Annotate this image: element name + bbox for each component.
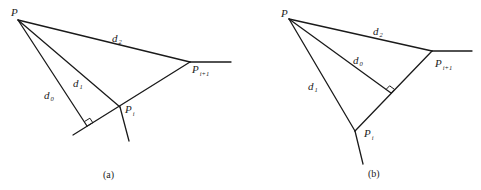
caption-b: (b) [368, 168, 380, 180]
segment-d2-a [18, 20, 190, 62]
segment-d1-b [289, 19, 355, 131]
label-Pi1-a: Pi+1 [191, 63, 209, 77]
edge-after-pi-b [355, 131, 363, 164]
panel-b: P d2 d0 d1 Pi Pi+1 (b) [280, 7, 472, 180]
label-d0-a: d0 [44, 89, 55, 102]
segment-d0-a [18, 20, 87, 126]
caption-a: (a) [103, 169, 114, 181]
label-d1-a: d1 [73, 77, 83, 90]
label-P-a: P [10, 6, 18, 18]
label-d1-b: d1 [308, 80, 318, 93]
label-P-b: P [280, 7, 288, 19]
panel-a: P d2 d1 d0 Pi Pi+1 (a) [10, 6, 231, 181]
diagram-canvas: P d2 d1 d0 Pi Pi+1 (a) P d2 d0 d1 Pi Pi+… [0, 0, 481, 190]
label-d2-b: d2 [373, 25, 384, 38]
label-Pi-b: Pi [363, 127, 374, 141]
label-Pi1-b: Pi+1 [434, 57, 452, 71]
label-d0-b: d0 [353, 54, 364, 67]
label-d2-a: d2 [112, 32, 123, 45]
label-Pi-a: Pi [124, 103, 135, 117]
